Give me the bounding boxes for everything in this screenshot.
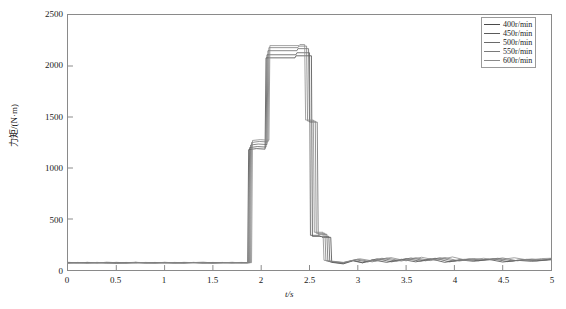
plot-area: [67, 14, 552, 271]
y-tick-label: 2500: [19, 10, 63, 19]
x-tick-label: 3.5: [401, 276, 412, 285]
x-tick-label: 4: [453, 276, 458, 285]
legend-swatch: [484, 60, 500, 61]
x-axis-title: t/s: [285, 289, 294, 299]
y-tick-label: 0: [19, 267, 63, 276]
figure: 力矩/(N·m) 05001000150020002500 00.511.522…: [0, 0, 566, 309]
x-tick-label: 2: [259, 276, 264, 285]
legend-item: 400r/min: [484, 20, 532, 29]
legend-item: 500r/min: [484, 38, 532, 47]
x-tick-label: 1: [162, 276, 167, 285]
y-tick-label: 1500: [19, 112, 63, 121]
x-tick-label: 2.5: [304, 276, 315, 285]
x-tick-label: 0: [65, 276, 70, 285]
legend: 400r/min450r/min500r/min550r/min600r/min: [481, 17, 536, 68]
series-line: [68, 53, 551, 264]
legend-label: 600r/min: [503, 56, 532, 65]
legend-label: 500r/min: [503, 38, 532, 47]
y-tick-label: 500: [19, 215, 63, 224]
legend-item: 550r/min: [484, 47, 532, 56]
legend-item: 600r/min: [484, 56, 532, 65]
legend-label: 550r/min: [503, 47, 532, 56]
x-tick-label: 5: [550, 276, 555, 285]
x-tick-label: 4.5: [498, 276, 509, 285]
legend-swatch: [484, 24, 500, 25]
legend-swatch: [484, 42, 500, 43]
chart-lines: [68, 15, 551, 270]
x-tick-label: 3: [356, 276, 361, 285]
x-tick-label: 0.5: [110, 276, 121, 285]
legend-swatch: [484, 51, 500, 52]
x-axis-tick-labels: 00.511.522.533.544.55: [67, 276, 552, 290]
legend-item: 450r/min: [484, 29, 532, 38]
y-tick-label: 1000: [19, 164, 63, 173]
x-tick-label: 1.5: [207, 276, 218, 285]
y-axis-tick-labels: 05001000150020002500: [14, 14, 63, 271]
legend-swatch: [484, 33, 500, 34]
legend-label: 450r/min: [503, 29, 532, 38]
legend-label: 400r/min: [503, 20, 532, 29]
y-tick-label: 2000: [19, 61, 63, 70]
